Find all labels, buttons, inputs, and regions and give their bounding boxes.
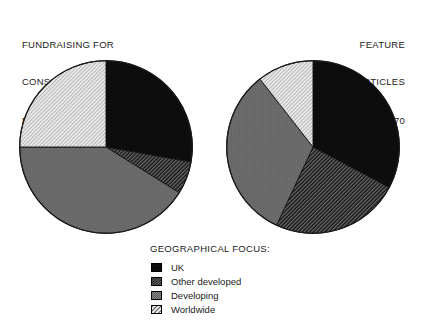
pie-left-slices <box>20 61 193 234</box>
figure-two-pie-charts: FUNDRAISING FOR CONSERVATION N = 23 FEAT… <box>0 0 423 322</box>
legend: GEOGRAPHICAL FOCUS: UK Other developed D… <box>148 243 328 317</box>
pie-left-slice-worldwide <box>20 61 106 147</box>
pie-chart-fundraising-for-conservation <box>17 58 195 236</box>
panel-title-left-line1: FUNDRAISING FOR <box>22 39 114 51</box>
legend-label-worldwide: Worldwide <box>171 304 215 315</box>
panel-title-right-line1: FEATURE <box>357 39 405 51</box>
pie-left-slice-uk <box>106 61 192 162</box>
pie-right-svg <box>224 58 402 236</box>
legend-label-developing: Developing <box>171 290 219 301</box>
pie-left-svg <box>17 58 195 236</box>
legend-swatch-worldwide <box>151 305 162 314</box>
legend-item-other-developed: Other developed <box>148 275 328 288</box>
legend-label-other-developed: Other developed <box>171 276 241 287</box>
legend-swatch-developing <box>151 291 162 300</box>
pie-right-slices <box>227 61 400 234</box>
legend-swatch-uk <box>151 263 162 272</box>
legend-title: GEOGRAPHICAL FOCUS: <box>150 243 328 254</box>
pie-chart-feature-articles <box>224 58 402 236</box>
legend-item-worldwide: Worldwide <box>148 303 328 316</box>
legend-label-uk: UK <box>171 262 184 273</box>
legend-swatch-other-developed <box>151 277 162 286</box>
legend-item-developing: Developing <box>148 289 328 302</box>
legend-item-uk: UK <box>148 261 328 274</box>
